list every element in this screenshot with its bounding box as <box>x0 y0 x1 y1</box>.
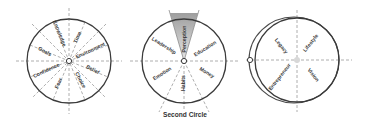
label-habits: Habits <box>180 75 186 91</box>
label-leadership: Leadership <box>151 35 178 55</box>
label-perception: Perception <box>181 26 187 53</box>
center-hub <box>181 58 186 63</box>
label-belief: Belief <box>85 63 101 75</box>
circles-diagram: Knowledge Time Goals Environment Confide… <box>0 0 370 128</box>
label-emotion: Emotion <box>152 65 173 81</box>
label-environment: Environment <box>75 41 107 60</box>
label-goals: Goals <box>37 45 53 57</box>
label-choice: Choice <box>74 71 87 89</box>
label-vision: Vision <box>306 67 320 83</box>
label-education: Education <box>193 39 217 57</box>
edge-hub <box>247 57 252 62</box>
label-fear: Fear <box>53 77 63 89</box>
label-entrepreneur: Entrepreneur <box>267 62 292 91</box>
label-confidence: Confidence <box>32 61 60 78</box>
second-circle: Leadership Perception Education Emotion … <box>130 10 238 112</box>
first-circle: Knowledge Time Goals Environment Confide… <box>16 8 122 114</box>
center-dot <box>294 57 300 63</box>
label-lifestyle: Lifestyle <box>302 33 320 53</box>
third-circle: Legacy Lifestyle Entrepreneur Vision <box>246 10 352 112</box>
center-hub <box>66 58 71 63</box>
label-knowledge: Knowledge <box>52 19 68 47</box>
label-money: Money <box>199 65 216 79</box>
caption: Second Circle <box>140 111 230 118</box>
label-time: Time <box>72 30 83 44</box>
label-legacy: Legacy <box>274 37 290 55</box>
